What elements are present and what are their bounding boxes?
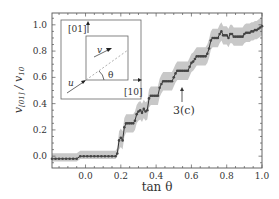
data-point <box>187 69 190 72</box>
data-point <box>114 155 117 158</box>
data-point <box>123 126 126 129</box>
inset-label-01: [01] <box>68 24 86 34</box>
data-point <box>120 136 123 139</box>
data-point <box>171 80 174 83</box>
data-point <box>58 158 61 161</box>
y-tick-label: 0.4 <box>33 99 48 109</box>
inset-label-u: u <box>68 78 74 88</box>
data-point <box>139 109 142 112</box>
data-point <box>220 30 223 33</box>
data-point <box>121 139 124 142</box>
data-point <box>157 94 160 97</box>
data-point <box>86 155 89 158</box>
data-point <box>111 155 114 158</box>
x-tick-label: 0.2 <box>114 171 128 181</box>
chart: 0.00.20.40.60.81.0 0.00.20.40.60.81.0 ta… <box>0 0 279 199</box>
data-point <box>210 39 213 42</box>
data-point <box>79 155 82 158</box>
data-point <box>65 158 68 161</box>
data-point <box>134 119 137 122</box>
inset-label-theta: θ <box>108 70 113 80</box>
data-point <box>160 83 163 86</box>
data-point <box>118 139 121 142</box>
x-axis-label: tan θ <box>142 180 173 194</box>
x-tick-label: 0.8 <box>220 171 235 181</box>
svg-text:3(c): 3(c) <box>173 104 195 117</box>
annotation-3c: 3(c) <box>173 87 195 117</box>
annotation-arrow-icon <box>180 87 184 91</box>
data-point <box>206 52 209 55</box>
y-tick-labels: 0.00.20.40.60.81.0 <box>33 20 48 161</box>
data-point <box>100 155 103 158</box>
data-point <box>192 60 195 63</box>
data-point <box>90 155 93 158</box>
data-point <box>231 33 234 36</box>
inset-label-v: v <box>97 45 102 55</box>
data-point <box>227 37 230 40</box>
data-point <box>135 113 138 116</box>
data-point <box>188 66 191 69</box>
data-point <box>241 35 244 38</box>
data-point <box>61 158 64 161</box>
data-point <box>141 112 144 115</box>
y-tick-label: 0.2 <box>33 125 47 135</box>
x-tick-label: 0.0 <box>78 171 93 181</box>
data-point <box>68 158 71 161</box>
data-point <box>146 109 149 112</box>
data-point <box>107 155 110 158</box>
y-tick-label: 0.8 <box>33 46 48 56</box>
data-point <box>116 152 119 155</box>
data-point <box>75 158 78 161</box>
data-point <box>204 55 207 58</box>
y-tick-label: 0.6 <box>33 72 48 82</box>
data-point <box>54 158 57 161</box>
data-point <box>142 108 145 111</box>
data-point <box>208 47 211 50</box>
data-point <box>174 72 177 75</box>
x-tick-label: 0.6 <box>184 171 199 181</box>
y-tick-label: 0.0 <box>33 151 48 161</box>
svg-text:v[01] / v10: v[01] / v10 <box>12 66 26 113</box>
y-tick-label: 1.0 <box>33 20 48 30</box>
inset-diagram: [01] [10] u v θ <box>61 20 142 99</box>
x-tick-label: 1.0 <box>255 171 270 181</box>
inset-label-10: [10] <box>124 87 142 97</box>
data-point <box>194 58 197 61</box>
data-point <box>158 87 161 90</box>
data-point <box>225 34 228 37</box>
data-point <box>132 122 135 125</box>
data-point <box>218 33 221 36</box>
data-point <box>93 155 96 158</box>
data-point <box>72 158 75 161</box>
data-point <box>172 76 175 79</box>
y-axis-label: v[01] / v10 <box>12 66 26 113</box>
x-tick-labels: 0.00.20.40.60.81.0 <box>78 171 269 181</box>
data-point <box>97 155 100 158</box>
data-point <box>148 97 151 100</box>
data-point <box>104 155 107 158</box>
data-point <box>217 37 220 40</box>
data-point <box>82 155 85 158</box>
